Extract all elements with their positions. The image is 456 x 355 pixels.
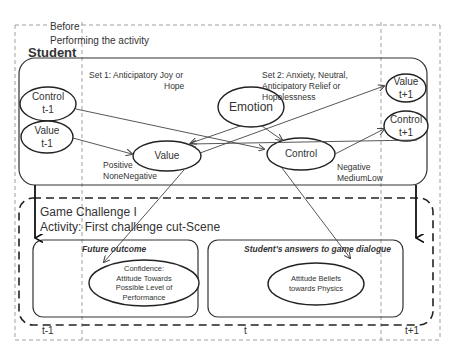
- time-label-prev: t-1: [42, 325, 54, 337]
- game-activity-label: Activity: First challenge cut-Scene: [40, 220, 220, 234]
- student-title: Student: [28, 45, 76, 60]
- value-next-time: t+1: [386, 89, 426, 101]
- control-next-time: t+1: [384, 127, 428, 139]
- attitude-line-1: Attitude Beliefs: [268, 274, 364, 284]
- control-level-medium-low: MediumLow: [337, 173, 383, 183]
- value-prev-label: Value: [21, 125, 73, 137]
- answers-title: Student's answers to game dialogue: [244, 244, 391, 254]
- control-prev-label: Control: [20, 91, 76, 103]
- value-level-positive: Positive: [103, 160, 133, 170]
- value-next-label: Value: [386, 76, 426, 88]
- set2-label-line1: Set 2: Anxiety, Neutral,: [262, 70, 348, 80]
- confidence-line-2: Attitude Towards: [89, 274, 199, 284]
- control-level-negative: Negative: [337, 162, 371, 172]
- phase-label: Before: [50, 21, 79, 33]
- value-level-none-negative: NoneNegative: [103, 171, 157, 181]
- set1-label-line1: Set 1: Anticipatory Joy or: [89, 70, 183, 80]
- set1-label-line2: Hope: [164, 81, 184, 91]
- future-outcome-title: Future outcome: [82, 244, 146, 254]
- control-prev-time: t-1: [20, 104, 76, 116]
- value-prev-time: t-1: [21, 138, 73, 150]
- control-label: Control: [267, 148, 335, 160]
- game-challenge-title: Game Challenge I: [40, 205, 137, 219]
- time-label-current: t: [244, 325, 247, 337]
- value-label: Value: [133, 150, 201, 162]
- time-label-next: t+1: [405, 325, 419, 337]
- confidence-line-1: Confidence:: [89, 264, 199, 274]
- confidence-line-4: Performance: [89, 293, 199, 303]
- control-next-label: Control: [384, 114, 428, 126]
- attitude-beliefs-text: Attitude Beliefs towards Physics: [268, 274, 364, 294]
- set2-label-line2: Anticipatory Relief or: [262, 81, 340, 91]
- attitude-line-2: towards Physics: [268, 284, 364, 294]
- emotion-label: Emotion: [218, 100, 284, 114]
- confidence-text: Confidence: Attitude Towards Possible Le…: [89, 264, 199, 302]
- confidence-line-3: Possible Level of: [89, 283, 199, 293]
